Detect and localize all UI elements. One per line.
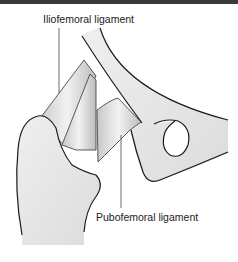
iliofemoral-label: Iliofemoral ligament [43, 13, 134, 25]
pubofemoral-label: Pubofemoral ligament [96, 211, 198, 223]
